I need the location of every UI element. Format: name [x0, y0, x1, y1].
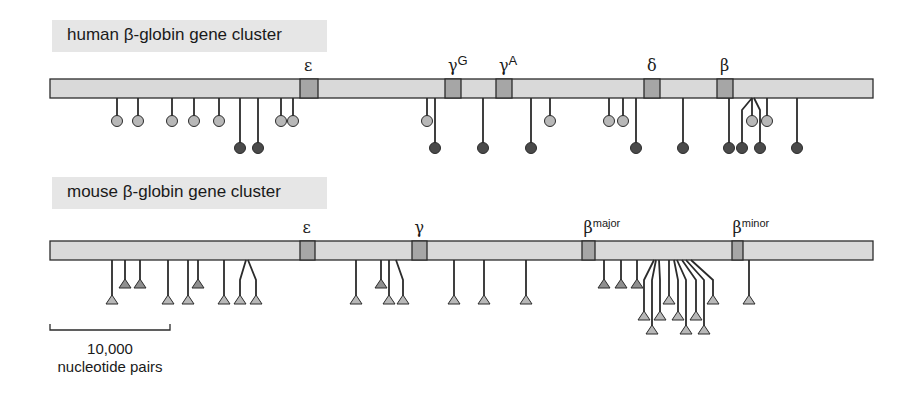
human-gene-label: β — [720, 56, 729, 75]
dark-site-circle — [631, 143, 642, 154]
dark-site-circle — [792, 143, 803, 154]
dark-site-circle — [253, 143, 264, 154]
site-triangle-marker — [707, 295, 719, 304]
site-triangle-marker — [234, 295, 246, 304]
scale-unit: nucleotide pairs — [47, 358, 173, 375]
site-triangle-marker — [448, 295, 460, 304]
human-gene-label: ε — [304, 56, 312, 75]
site-triangle-marker — [383, 295, 395, 304]
mouse-site-stem — [659, 260, 660, 312]
site-triangle-marker — [680, 325, 692, 334]
site-triangle-marker — [106, 295, 118, 304]
site-triangle-marker — [698, 325, 710, 334]
site-triangle-marker — [646, 325, 658, 334]
light-site-circle — [618, 116, 629, 127]
light-site-circle — [189, 116, 200, 127]
light-site-circle — [545, 116, 556, 127]
mouse-gene-label: γ — [415, 218, 425, 237]
light-site-circle — [422, 116, 433, 127]
dark-site-circle — [678, 143, 689, 154]
mouse-site-stem — [240, 260, 246, 296]
light-site-circle — [288, 116, 299, 127]
scale-value: 10,000 — [85, 340, 135, 357]
site-triangle-marker — [192, 279, 204, 288]
human-gene-box — [644, 79, 660, 98]
human-gene-box — [445, 79, 461, 98]
human-gene-label: γA — [499, 53, 518, 75]
mouse-site-stem — [248, 260, 256, 296]
site-triangle-marker — [638, 311, 650, 320]
site-triangle-marker — [654, 311, 666, 320]
dark-site-circle — [478, 143, 489, 154]
site-triangle-marker — [690, 311, 702, 320]
mouse-gene-label: βmajor — [584, 217, 621, 237]
dark-site-circle — [430, 143, 441, 154]
mouse-site-stem — [396, 260, 403, 296]
light-site-circle — [747, 116, 758, 127]
site-triangle-marker — [134, 279, 146, 288]
light-site-circle — [133, 116, 144, 127]
site-triangle-marker — [119, 279, 131, 288]
site-triangle-marker — [672, 311, 684, 320]
scale-bar — [50, 324, 170, 330]
globin-cluster-diagram: εγGγAδβεγβmajorβminor — [0, 0, 910, 397]
mouse-dna-bar — [50, 241, 873, 260]
site-triangle-marker — [162, 295, 174, 304]
mouse-gene-label: βminor — [733, 217, 770, 237]
mouse-site-stem — [652, 260, 656, 326]
dark-site-circle — [526, 143, 537, 154]
site-triangle-marker — [375, 279, 387, 288]
human-gene-label: γG — [448, 53, 468, 75]
mouse-gene-box — [412, 241, 427, 260]
site-triangle-marker — [350, 295, 362, 304]
site-triangle-marker — [631, 279, 643, 288]
dark-site-circle — [724, 143, 735, 154]
mouse-gene-label: ε — [303, 218, 311, 237]
site-triangle-marker — [598, 279, 610, 288]
dark-site-circle — [235, 143, 246, 154]
light-site-circle — [112, 116, 123, 127]
site-triangle-marker — [743, 295, 755, 304]
site-triangle-marker — [397, 295, 409, 304]
light-site-circle — [762, 116, 773, 127]
site-triangle-marker — [615, 279, 627, 288]
site-triangle-marker — [520, 295, 532, 304]
dark-site-circle — [737, 143, 748, 154]
light-site-circle — [167, 116, 178, 127]
site-triangle-marker — [250, 295, 262, 304]
light-site-circle — [214, 116, 225, 127]
mouse-gene-box — [300, 241, 315, 260]
site-triangle-marker — [663, 295, 675, 304]
mouse-gene-box — [732, 241, 743, 260]
human-gene-box — [496, 79, 512, 98]
human-gene-label: δ — [647, 56, 657, 75]
dark-site-circle — [755, 143, 766, 154]
mouse-gene-box — [582, 241, 595, 260]
light-site-circle — [604, 116, 615, 127]
site-triangle-marker — [218, 295, 230, 304]
site-triangle-marker — [182, 295, 194, 304]
site-triangle-marker — [478, 295, 490, 304]
human-gene-box — [717, 79, 733, 98]
human-gene-box — [300, 79, 318, 98]
light-site-circle — [276, 116, 287, 127]
